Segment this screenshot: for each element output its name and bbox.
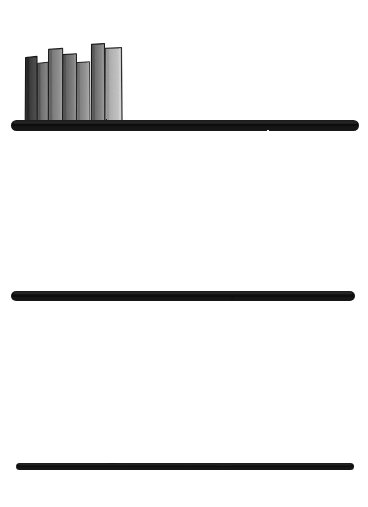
book-3 [48, 48, 63, 121]
bookshelf-illustration [0, 0, 368, 507]
book-1 [25, 56, 37, 121]
bottom-shelf [16, 463, 354, 470]
book-7 [105, 48, 122, 122]
top-shelf [11, 120, 359, 131]
middle-shelf [11, 291, 355, 301]
book-5 [76, 62, 90, 122]
book-6 [91, 44, 105, 122]
book-2 [37, 62, 48, 121]
book-4 [63, 54, 77, 122]
illustration-canvas: Bookshelf with books on top shelf [0, 0, 368, 507]
